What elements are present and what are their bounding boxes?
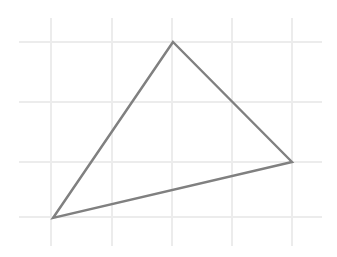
grid-vertical-lines (51, 18, 292, 246)
figure-canvas (0, 0, 337, 257)
grid-layer (19, 18, 322, 246)
triangle-diagram (0, 0, 337, 257)
